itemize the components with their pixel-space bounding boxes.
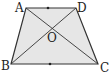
trapezoid-diagram: A D B C O (0, 0, 111, 79)
midpoint-bc-mark (49, 63, 52, 66)
midpoint-ad-mark (47, 7, 50, 10)
vertex-label-d: D (77, 1, 87, 15)
vertex-label-b: B (1, 59, 10, 73)
intersection-label-o: O (47, 31, 57, 45)
vertex-label-a: A (14, 1, 24, 15)
vertex-label-c: C (100, 61, 109, 75)
